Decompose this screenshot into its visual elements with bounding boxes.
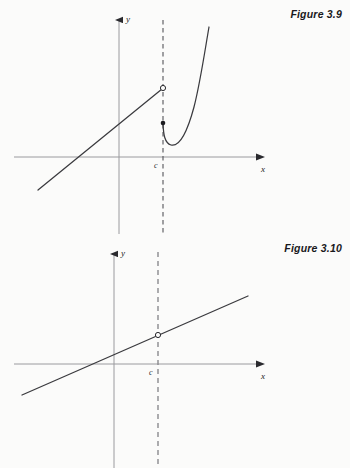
figure-3-9: Figure 3.9 — [0, 0, 350, 234]
open-circle-3-9 — [160, 85, 165, 90]
c-label-3-10: c — [149, 368, 153, 377]
open-circle-3-10 — [155, 332, 160, 337]
filled-dot-3-9 — [161, 121, 166, 126]
right-parabola-branch-3-9 — [163, 27, 209, 145]
y-axis-label-3-10: y — [120, 248, 125, 258]
figure-page: Figure 3.9 — [0, 0, 350, 468]
figure-3-10: Figure 3.10 y x c — [0, 234, 350, 468]
x-axis-label-3-9: x — [260, 164, 265, 174]
c-label-3-9: c — [154, 161, 158, 170]
x-axis-label-3-10: x — [260, 371, 265, 381]
straight-line-3-10 — [22, 296, 248, 395]
plot-figure-3-10: y x c — [0, 234, 350, 468]
y-axis-label-3-9: y — [125, 14, 130, 24]
plot-figure-3-9: y x c — [0, 0, 350, 234]
left-line-segment-3-9 — [38, 89, 162, 190]
